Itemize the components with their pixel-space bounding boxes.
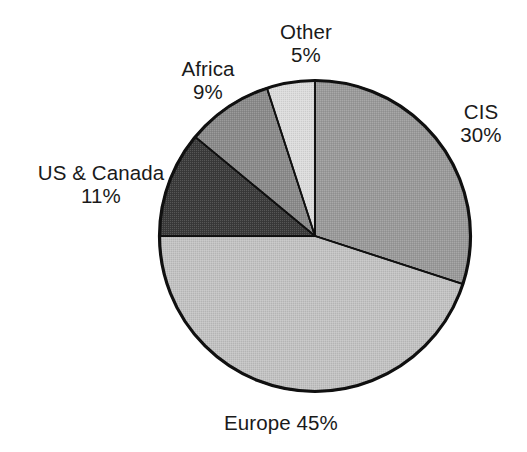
pie-label-europe: Europe 45% xyxy=(215,411,347,434)
pie-label-cis-value: 30% xyxy=(449,123,513,146)
pie-label-us-canada: US & Canada 11% xyxy=(25,161,177,207)
pie-label-other-name: Other xyxy=(264,20,348,43)
pie-label-africa: Africa 9% xyxy=(166,57,250,103)
pie-label-us-canada-name: US & Canada xyxy=(25,161,177,184)
pie-label-africa-name: Africa xyxy=(166,57,250,80)
pie-label-other: Other 5% xyxy=(264,20,348,66)
pie-label-africa-value: 9% xyxy=(166,80,250,103)
pie-label-cis-name: CIS xyxy=(449,100,513,123)
pie-label-us-canada-value: 11% xyxy=(25,184,177,207)
pie-label-cis: CIS 30% xyxy=(449,100,513,146)
pie-chart-graphic xyxy=(0,0,527,452)
pie-label-other-value: 5% xyxy=(264,43,348,66)
pie-label-europe-name: Europe xyxy=(224,411,291,434)
pie-label-europe-value: 45% xyxy=(297,411,338,434)
pie-chart-figure: Other 5% Africa 9% US & Canada 11% CIS 3… xyxy=(0,0,527,452)
